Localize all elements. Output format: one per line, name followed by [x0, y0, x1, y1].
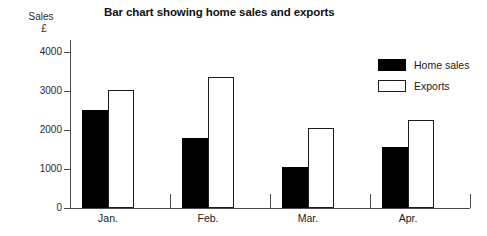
- y-axis-label-line2: £: [14, 23, 68, 35]
- y-axis-label-line1: Sales: [28, 11, 53, 22]
- x-axis-separator: [370, 194, 371, 208]
- legend-item-home-sales: Home sales: [378, 54, 469, 75]
- y-axis-tick-label-text: 0: [26, 203, 62, 213]
- y-axis-tick-label: 1000: [22, 164, 62, 174]
- legend-swatch-exports-icon: [378, 80, 406, 92]
- x-axis-separator: [270, 194, 271, 208]
- x-axis-label-feb: Feb.: [178, 211, 238, 225]
- bar-exports-mar: [308, 128, 334, 208]
- bar-exports-feb: [208, 77, 234, 208]
- y-axis-tick-label-text: 4000: [26, 47, 62, 57]
- legend-label-exports: Exports: [414, 80, 450, 92]
- bar-home-sales-feb: [182, 138, 208, 208]
- y-axis-tick-label: 2000: [22, 125, 62, 135]
- x-axis-label-mar: Mar.: [278, 211, 338, 225]
- bar-chart: Bar chart showing home sales and exports…: [0, 0, 487, 236]
- y-axis-tick-label-text: 3000: [26, 86, 62, 96]
- y-axis-tick-label: 3000: [22, 86, 62, 96]
- legend: Home sales Exports: [378, 54, 469, 96]
- legend-swatch-home-sales-icon: [378, 59, 406, 71]
- bar-exports-apr: [408, 120, 434, 208]
- y-axis-tick-label-text: 1000: [26, 164, 62, 174]
- bar-exports-jan: [108, 90, 134, 208]
- legend-label-home-sales: Home sales: [414, 59, 469, 71]
- bar-home-sales-apr: [382, 147, 408, 208]
- x-axis-separator: [470, 194, 471, 208]
- x-axis-separator: [170, 194, 171, 208]
- bar-home-sales-jan: [82, 110, 108, 208]
- bar-home-sales-mar: [282, 167, 308, 208]
- y-axis-tick-label-text: 2000: [26, 125, 62, 135]
- y-axis-tick-label: 0: [22, 203, 62, 213]
- y-axis-label: Sales £: [14, 11, 68, 35]
- legend-item-exports: Exports: [378, 75, 469, 96]
- x-axis-label-jan: Jan.: [78, 211, 138, 225]
- x-axis-separator: [70, 194, 71, 208]
- x-axis-label-apr: Apr.: [378, 211, 438, 225]
- x-axis-line: [70, 208, 470, 209]
- y-axis-tick-label: 4000: [22, 47, 62, 57]
- y-axis-tick: [64, 208, 71, 209]
- chart-title: Bar chart showing home sales and exports: [104, 6, 335, 18]
